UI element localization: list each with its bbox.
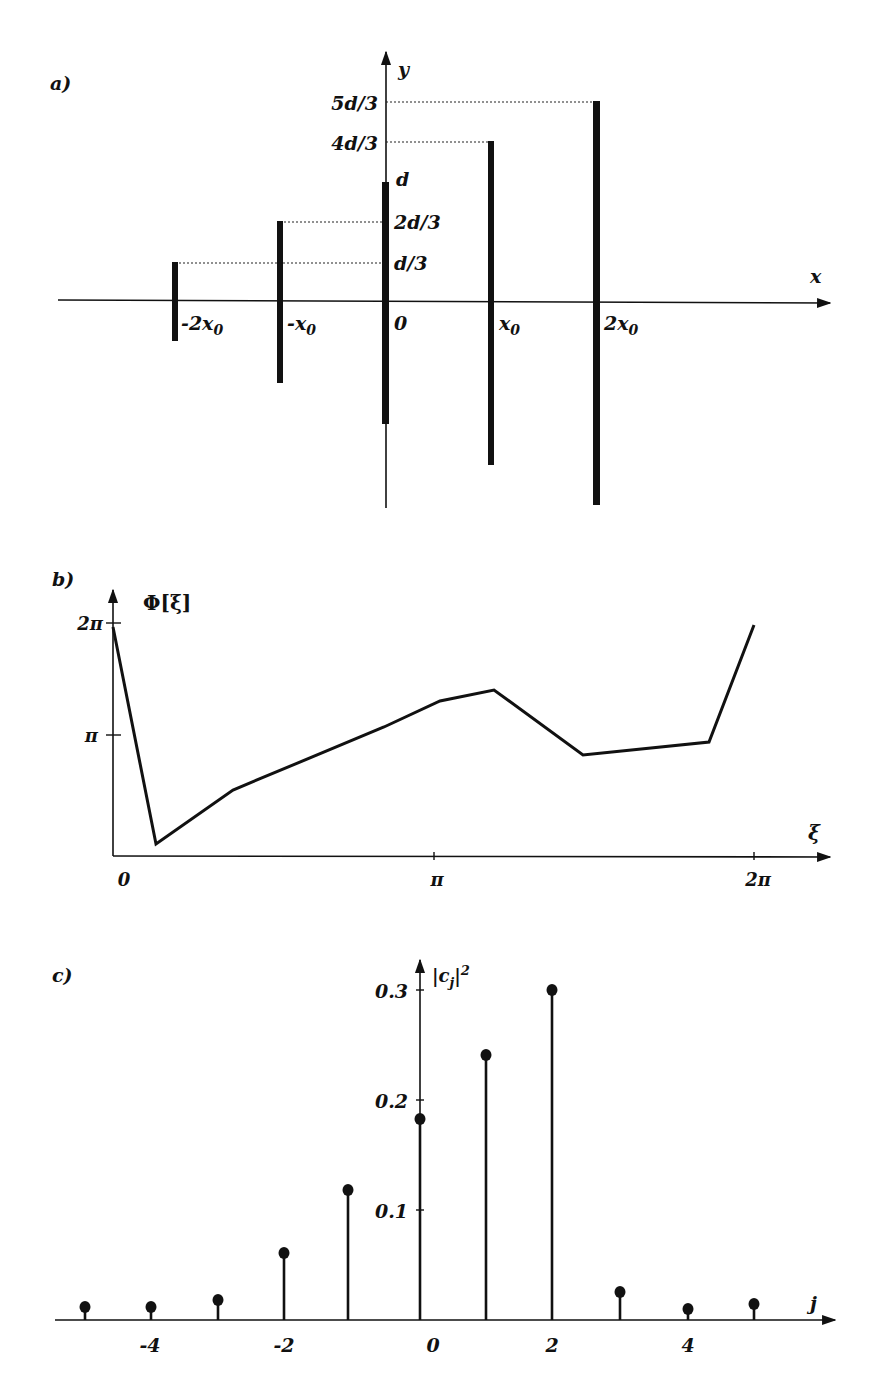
tick-label-2pi-y: 2π <box>76 613 104 634</box>
tick-label-0.2: 0.2 <box>375 1090 408 1112</box>
marker-j-2 <box>547 984 558 996</box>
marker-j-0 <box>415 1113 426 1125</box>
phase-curve <box>113 625 754 844</box>
panel-c-label: c) <box>52 964 73 986</box>
marker-j-4 <box>683 1303 694 1315</box>
tick-label-j-minus4: -4 <box>139 1334 160 1356</box>
marker-j-minus2 <box>279 1247 290 1259</box>
xi-axis <box>113 856 830 857</box>
slit-2x0 <box>593 101 600 505</box>
tick-label-2pi-x: 2π <box>744 869 772 890</box>
tick-label-0.1: 0.1 <box>375 1200 408 1222</box>
marker-j-minus5 <box>80 1301 91 1313</box>
marker-j-minus3 <box>213 1294 224 1306</box>
cj-axis-label: |cj|2 <box>432 963 470 990</box>
tick-4d3: 4d/3 <box>331 132 378 154</box>
panel-a: a) x y 5d/3 4d/3 d 2d/3 d/3 -2x0 -x0 <box>50 52 830 508</box>
panel-b-label: b) <box>52 568 74 590</box>
tick-x0: x0 <box>498 312 520 338</box>
marker-j-3 <box>615 1286 626 1298</box>
slit-minus-2x0 <box>172 262 178 341</box>
tick-label-0-x: 0 <box>118 869 131 890</box>
marker-j-1 <box>481 1049 492 1061</box>
tick-zero: 0 <box>394 312 407 334</box>
y-axis-label: y <box>397 58 411 80</box>
tick-d: d <box>396 168 409 190</box>
figure-canvas: a) x y 5d/3 4d/3 d 2d/3 d/3 -2x0 -x0 <box>0 0 874 1376</box>
tick-minus-2x0: -2x0 <box>181 312 223 338</box>
tick-2x0: 2x0 <box>603 312 639 338</box>
tick-label-j-0: 0 <box>426 1334 439 1356</box>
panel-b: b) Φ[ξ] ξ 2π π 0 π 2π <box>52 568 830 890</box>
x-axis-label: x <box>809 265 822 287</box>
xi-axis-label: ξ <box>808 821 821 845</box>
j-axis-label: j <box>806 1292 817 1314</box>
slit-minus-x0 <box>277 221 283 383</box>
phi-axis-label: Φ[ξ] <box>143 591 191 615</box>
tick-label-pi-x: π <box>429 869 444 890</box>
panel-c: c) 0.3 0.2 0.1 |cj|2 j -4 -2 0 2 4 <box>52 960 835 1356</box>
marker-j-minus4 <box>146 1301 157 1313</box>
marker-j-minus1 <box>343 1184 354 1196</box>
tick-5d3: 5d/3 <box>331 92 378 114</box>
tick-2d3: 2d/3 <box>393 211 441 233</box>
tick-label-j-minus2: -2 <box>273 1334 294 1356</box>
slit-0 <box>382 182 389 424</box>
marker-j-5 <box>749 1298 760 1310</box>
tick-label-pi-y: π <box>84 725 99 746</box>
tick-label-j-4: 4 <box>681 1334 694 1356</box>
tick-minus-x0: -x0 <box>287 312 316 338</box>
tick-label-0.3: 0.3 <box>375 980 408 1002</box>
slit-x0 <box>488 141 494 465</box>
tick-d3: d/3 <box>394 252 427 274</box>
tick-label-j-2: 2 <box>544 1334 558 1356</box>
panel-a-label: a) <box>50 72 71 94</box>
